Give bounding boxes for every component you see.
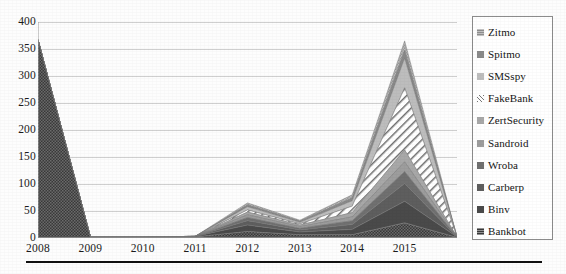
- legend-swatch-icon: [477, 140, 484, 147]
- x-axis: 20082009201020112012201320142015: [38, 242, 457, 258]
- legend-item-spitmo[interactable]: Spitmo: [477, 43, 552, 65]
- legend-item-label: Spitmo: [488, 49, 520, 60]
- x-axis-tick-label: 2009: [78, 242, 102, 254]
- y-axis-tick-label: 150: [2, 151, 36, 162]
- x-axis-tick-label: 2012: [236, 242, 260, 254]
- legend-item-bankbot[interactable]: Bankbot: [477, 221, 552, 243]
- chart-figure: 400350300250200150100500: [0, 0, 566, 274]
- area-series-group: [38, 40, 457, 238]
- legend-swatch-icon: [477, 184, 484, 191]
- chart-legend: ZitmoSpitmoSMSspyFakeBankZertSecuritySan…: [472, 16, 553, 240]
- legend-swatch-icon: [477, 95, 484, 102]
- x-axis-tick-label: 2010: [131, 242, 155, 254]
- y-axis-tick-label: 50: [2, 205, 36, 216]
- x-axis-tick-label: 2013: [288, 242, 312, 254]
- legend-swatch-icon: [477, 51, 484, 58]
- y-axis-tick-label: 100: [2, 178, 36, 189]
- legend-item-label: Zitmo: [488, 27, 515, 38]
- legend-item-label: Carberp: [488, 182, 524, 193]
- stacked-area-plot: [38, 22, 457, 238]
- y-axis-tick-label: 400: [2, 16, 36, 27]
- y-axis-tick-label: 250: [2, 97, 36, 108]
- footer-rule: [26, 261, 542, 263]
- plot-area: [38, 22, 457, 238]
- legend-item-fakebank[interactable]: FakeBank: [477, 88, 552, 110]
- legend-swatch-icon: [477, 228, 484, 235]
- y-axis: 400350300250200150100500: [0, 0, 36, 260]
- y-axis-tick-label: 200: [2, 124, 36, 135]
- legend-item-label: FakeBank: [488, 93, 533, 104]
- legend-item-label: Wroba: [488, 160, 518, 171]
- legend-item-binv[interactable]: Binv: [477, 199, 552, 221]
- y-axis-tick-label: 300: [2, 70, 36, 81]
- legend-swatch-icon: [477, 162, 484, 169]
- legend-item-zertsecurity[interactable]: ZertSecurity: [477, 110, 552, 132]
- x-axis-tick-label: 2014: [340, 242, 364, 254]
- legend-item-sandroid[interactable]: Sandroid: [477, 132, 552, 154]
- legend-item-label: SMSspy: [488, 71, 526, 82]
- legend-item-zitmo[interactable]: Zitmo: [477, 21, 552, 43]
- legend-item-label: ZertSecurity: [488, 115, 544, 126]
- x-axis-tick-label: 2015: [393, 242, 417, 254]
- legend-swatch-icon: [477, 117, 484, 124]
- x-axis-tick-label: 2008: [26, 242, 50, 254]
- legend-swatch-icon: [477, 73, 484, 80]
- legend-item-label: Bankbot: [488, 226, 526, 237]
- legend-swatch-icon: [477, 206, 484, 213]
- legend-item-wroba[interactable]: Wroba: [477, 154, 552, 176]
- y-axis-tick-label: 350: [2, 43, 36, 54]
- legend-item-label: Binv: [488, 204, 510, 215]
- legend-item-carberp[interactable]: Carberp: [477, 176, 552, 198]
- legend-swatch-icon: [477, 29, 484, 36]
- x-axis-tick-label: 2011: [183, 242, 206, 254]
- legend-item-smsspy[interactable]: SMSspy: [477, 65, 552, 87]
- legend-item-label: Sandroid: [488, 138, 529, 149]
